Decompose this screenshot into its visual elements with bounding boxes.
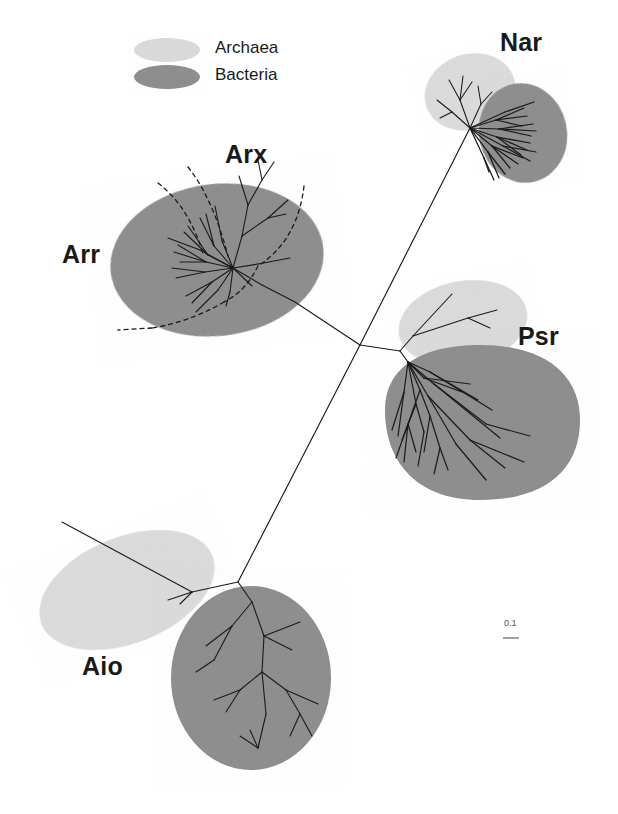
- clade-blob-aio: [22, 506, 331, 770]
- legend-label-bacteria: Bacteria: [215, 65, 277, 85]
- clade-label-arx: Arx: [225, 140, 267, 169]
- legend-swatch-archaea: [134, 38, 200, 62]
- clade-label-aio: Aio: [82, 652, 123, 681]
- clade-label-nar: Nar: [500, 28, 542, 57]
- legend-label-archaea: Archaea: [215, 38, 278, 58]
- tree-canvas: [0, 0, 618, 814]
- legend-swatches: [134, 38, 200, 89]
- backbone-center-to-psr: [360, 345, 400, 351]
- backbone-center-to-aio: [238, 345, 360, 582]
- aio-bacteria-blob: [171, 586, 331, 770]
- clade-label-psr: Psr: [518, 322, 559, 351]
- phylogenetic-tree-figure: Archaea Bacteria Nar Arx Arr Psr Aio 0.1: [0, 0, 618, 814]
- scale-bar-label: 0.1: [504, 618, 517, 628]
- clade-label-arr: Arr: [62, 240, 100, 269]
- legend-swatch-bacteria: [134, 65, 200, 89]
- clade-blob-psr: [385, 269, 580, 500]
